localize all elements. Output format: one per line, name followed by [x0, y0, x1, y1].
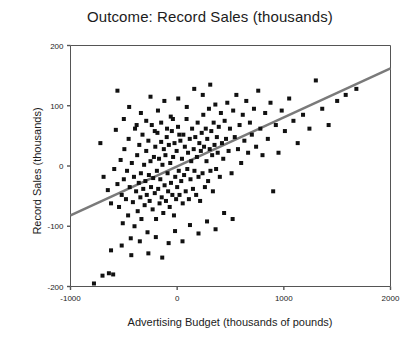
data-point [151, 176, 155, 180]
data-point [124, 197, 128, 201]
data-point [125, 169, 129, 173]
data-point [335, 99, 339, 103]
data-point [154, 217, 158, 221]
data-point [145, 193, 149, 197]
data-point [283, 129, 287, 133]
data-point [204, 127, 208, 131]
data-point [198, 199, 202, 203]
data-point [201, 171, 205, 175]
data-point [168, 205, 172, 209]
data-point [258, 127, 262, 131]
data-point [185, 117, 189, 121]
data-point [242, 139, 246, 143]
data-point [274, 123, 278, 127]
data-point [256, 89, 260, 93]
data-point [127, 137, 131, 141]
data-point [266, 137, 270, 141]
data-point [175, 185, 179, 189]
data-point [197, 141, 201, 145]
data-point [146, 230, 150, 234]
data-point [156, 187, 160, 191]
y-tick-label: 200 [50, 42, 64, 51]
data-point [214, 227, 218, 231]
data-point [261, 153, 265, 157]
data-point [208, 83, 212, 87]
data-point [194, 193, 198, 197]
data-point [152, 155, 156, 159]
data-point [120, 244, 124, 248]
data-point [128, 185, 132, 189]
x-axis-label: Advertising Budget (thousands of pounds) [70, 316, 390, 328]
axis-ticks: -200-1000100200-1000010002000 [47, 42, 399, 303]
data-point [158, 177, 162, 181]
data-point [178, 193, 182, 197]
data-point [182, 173, 186, 177]
data-point [159, 140, 163, 144]
data-point [200, 131, 204, 135]
data-point [134, 189, 138, 193]
data-point [188, 223, 192, 227]
data-point [169, 181, 173, 185]
data-point [244, 99, 248, 103]
data-point [178, 139, 182, 143]
data-point [158, 201, 162, 205]
data-point [160, 163, 164, 167]
data-point [314, 78, 318, 82]
data-point [263, 111, 267, 115]
data-point [184, 189, 188, 193]
plot-frame [71, 46, 391, 287]
data-point [122, 177, 126, 181]
data-point [252, 107, 256, 111]
data-point [102, 175, 106, 179]
y-axis-label: Record Sales (thousands) [31, 91, 43, 251]
x-tick-label: 0 [175, 294, 180, 303]
data-point [153, 191, 157, 195]
data-point [225, 101, 229, 105]
data-point [173, 175, 177, 179]
data-point [180, 157, 184, 161]
data-point [211, 189, 215, 193]
data-point [155, 169, 159, 173]
data-point [239, 161, 243, 165]
data-point [188, 137, 192, 141]
data-point [181, 201, 185, 205]
data-point [142, 163, 146, 167]
data-point [148, 199, 152, 203]
data-point [160, 195, 164, 199]
data-point [212, 121, 216, 125]
plot-area: -200-1000100200-1000010002000 [0, 0, 420, 350]
data-point [106, 188, 110, 192]
data-point [205, 137, 209, 141]
data-point [185, 167, 189, 171]
data-point [220, 141, 224, 145]
data-point [149, 185, 153, 189]
data-point [154, 235, 158, 239]
data-point [162, 147, 166, 151]
data-point [197, 175, 201, 179]
data-point [149, 159, 153, 163]
data-point [177, 133, 181, 137]
data-point [236, 147, 240, 151]
data-point [181, 133, 185, 137]
data-point [176, 97, 180, 101]
data-point [228, 127, 232, 131]
data-point [165, 127, 169, 131]
data-point [197, 231, 201, 235]
data-point [109, 201, 113, 205]
data-point [141, 133, 145, 137]
scatter-chart: Outcome: Record Sales (thousands) -200-1… [0, 0, 420, 350]
data-point [174, 197, 178, 201]
data-point [151, 207, 155, 211]
data-point [241, 113, 245, 117]
data-point [131, 200, 135, 204]
data-point [139, 171, 143, 175]
data-point [205, 219, 209, 223]
data-point [115, 182, 119, 186]
data-point [192, 147, 196, 151]
data-point [162, 99, 166, 103]
data-point [160, 256, 164, 260]
data-point [296, 141, 300, 145]
data-point [111, 272, 115, 276]
data-point [135, 153, 139, 157]
data-point [153, 129, 157, 133]
